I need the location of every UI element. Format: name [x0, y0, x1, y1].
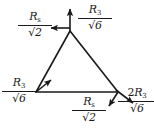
label-bottom-denominator: √2	[72, 111, 106, 123]
label-left-denominator: √6	[2, 92, 36, 104]
label-bottom-right-denominator: √6	[118, 102, 154, 114]
label-top-right-denominator: √6	[78, 19, 112, 31]
label-top-right: R3 √6	[78, 4, 112, 31]
label-left: R3 √6	[2, 77, 36, 104]
bottom-right-down-vector	[109, 92, 118, 106]
label-bottom: Rs √2	[72, 96, 106, 123]
label-bottom-right-numerator: 2R3	[118, 87, 154, 101]
label-top-left-numerator: Rs	[18, 11, 52, 25]
label-bottom-right: 2R3 √6	[118, 87, 154, 114]
label-top-left-denominator: √2	[18, 26, 52, 38]
label-top-right-numerator: R3	[78, 4, 112, 18]
bottom-left-vector	[36, 80, 51, 92]
label-top-left: Rs √2	[18, 11, 52, 38]
label-left-numerator: R3	[2, 77, 36, 91]
force-vector-figure: Rs √2 R3 √6 R3 √6 Rs √2 2R3 √6	[0, 0, 154, 133]
label-bottom-numerator: Rs	[72, 96, 106, 110]
